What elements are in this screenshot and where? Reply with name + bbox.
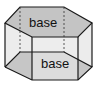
hexagonal-prism-diagram: base base — [0, 0, 98, 90]
bottom-base-label: base — [41, 56, 69, 71]
top-base-label: base — [29, 15, 57, 30]
